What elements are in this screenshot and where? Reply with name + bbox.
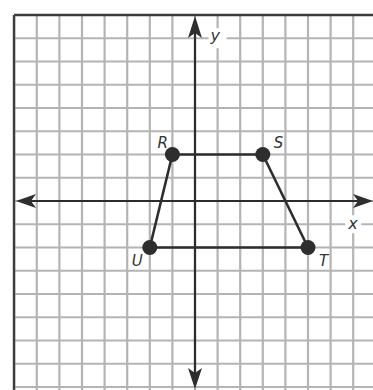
point-t: T — [301, 240, 331, 270]
point-label: S — [274, 134, 284, 152]
point-r: R — [157, 134, 180, 163]
grid — [14, 15, 373, 390]
y-axis-label: y — [210, 26, 221, 45]
point-dot-icon — [301, 240, 316, 255]
coordinate-plane: x y RSTU — [0, 0, 373, 390]
point-s: S — [255, 134, 284, 163]
point-label: R — [157, 134, 167, 152]
point-label: T — [319, 252, 330, 270]
point-dot-icon — [142, 240, 157, 255]
plane-border — [14, 15, 373, 390]
point-label: U — [132, 252, 143, 270]
point-dot-icon — [255, 147, 270, 162]
point-u: U — [132, 240, 158, 270]
axes: x y — [16, 16, 373, 389]
x-axis-label: x — [347, 214, 358, 233]
